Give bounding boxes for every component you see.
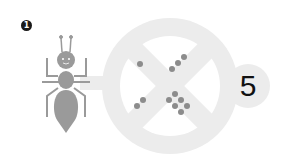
dot-group-top-left [137, 61, 143, 67]
answer-circle: 5 [226, 64, 270, 108]
